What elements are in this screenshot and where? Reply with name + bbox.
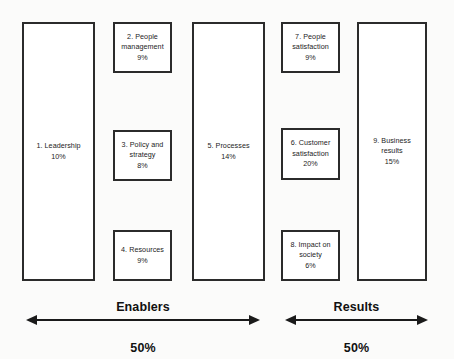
box-business-results-label: 9. Business results 15% xyxy=(370,136,414,167)
box-business-results[interactable]: 9. Business results 15% xyxy=(357,22,427,281)
box-people-management[interactable]: 2. People management 9% xyxy=(113,22,172,73)
box-people-satisfaction[interactable]: 7. People satisfaction 9% xyxy=(281,22,340,73)
box-policy-and-strategy[interactable]: 3. Policy and strategy 8% xyxy=(113,130,172,181)
results-group: Results 50% xyxy=(285,300,428,355)
box-people-satisfaction-label: 7. People satisfaction 9% xyxy=(289,32,332,63)
box-processes-label: 5. Processes 14% xyxy=(204,141,252,162)
box-leadership[interactable]: 1. Leadership 10% xyxy=(22,22,95,281)
results-double-arrow-icon xyxy=(285,313,428,327)
enablers-group: Enablers 50% xyxy=(26,300,260,355)
efqm-model-diagram: 1. Leadership 10% 2. People management 9… xyxy=(0,0,454,359)
box-resources-label: 4. Resources 9% xyxy=(118,245,167,266)
box-impact-on-society[interactable]: 8. Impact on society 6% xyxy=(281,230,340,281)
box-impact-on-society-label: 8. Impact on society 6% xyxy=(287,240,333,271)
enablers-label: Enablers xyxy=(26,300,260,314)
box-customer-satisfaction-label: 6. Customer satisfaction 20% xyxy=(288,138,334,169)
enablers-weight: 50% xyxy=(26,341,260,355)
box-processes[interactable]: 5. Processes 14% xyxy=(192,22,265,281)
results-weight: 50% xyxy=(285,341,428,355)
box-policy-and-strategy-label: 3. Policy and strategy 8% xyxy=(119,140,167,171)
results-label: Results xyxy=(285,300,428,314)
enablers-double-arrow-icon xyxy=(26,313,260,327)
box-resources[interactable]: 4. Resources 9% xyxy=(113,230,172,281)
box-leadership-label: 1. Leadership 10% xyxy=(33,141,83,162)
box-customer-satisfaction[interactable]: 6. Customer satisfaction 20% xyxy=(281,128,340,180)
box-people-management-label: 2. People management 9% xyxy=(118,32,166,63)
